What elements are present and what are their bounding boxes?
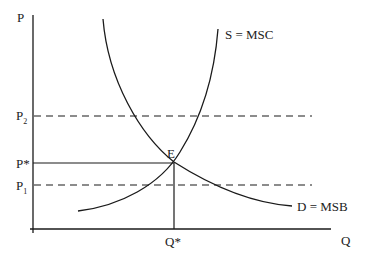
demand-curve-label: D = MSB — [297, 200, 348, 213]
q-star-label: Q* — [165, 235, 181, 248]
p1-sub: 1 — [23, 187, 27, 196]
x-axis-label: Q — [341, 234, 350, 247]
supply-curve-label: S = MSC — [225, 28, 274, 41]
p2-label: P2 — [16, 109, 27, 126]
p1-label: P1 — [16, 179, 27, 196]
equilibrium-label: E — [167, 147, 175, 160]
p-star-label: P* — [16, 157, 30, 170]
supply-curve — [78, 29, 218, 211]
p2-sub: 2 — [23, 117, 27, 126]
y-axis-label: P — [17, 11, 24, 24]
demand-curve — [103, 19, 292, 206]
diagram-canvas — [0, 0, 365, 266]
